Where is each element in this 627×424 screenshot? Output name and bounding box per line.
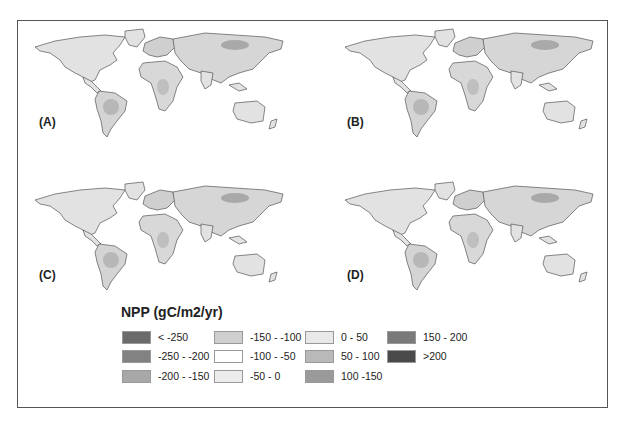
world-map-b <box>335 25 625 170</box>
legend-label: 50 - 100 <box>341 350 380 362</box>
legend-swatch <box>305 331 334 344</box>
legend-item: < -250 <box>122 330 188 344</box>
legend-swatch <box>305 350 334 363</box>
map-panel-b: (B) <box>335 25 625 170</box>
legend-label: -100 - -50 <box>250 350 296 362</box>
legend-item: -250 - -200 <box>122 349 209 363</box>
legend-item: 100 -150 <box>305 369 382 383</box>
legend-item: >200 <box>387 349 447 363</box>
map-panel-a: (A) <box>25 25 315 170</box>
map-panel-c: (C) <box>25 178 315 323</box>
legend-item: -50 - 0 <box>214 369 280 383</box>
legend-label: -50 - 0 <box>250 370 280 382</box>
legend-label: 150 - 200 <box>423 331 467 343</box>
legend-swatch <box>214 331 243 344</box>
legend-item: 50 - 100 <box>305 349 380 363</box>
panel-label-c: (C) <box>39 268 56 282</box>
legend-swatch <box>122 370 151 383</box>
panel-label-b: (B) <box>347 115 364 129</box>
legend-label: 100 -150 <box>341 370 382 382</box>
legend-item: -150 - -100 <box>214 330 301 344</box>
legend-swatch <box>387 331 416 344</box>
legend-swatch <box>387 350 416 363</box>
legend-label: < -250 <box>158 331 188 343</box>
legend-label: -150 - -100 <box>250 331 301 343</box>
legend-item: 0 - 50 <box>305 330 368 344</box>
legend-title: NPP (gC/m2/yr) <box>121 304 223 320</box>
legend-label: -250 - -200 <box>158 350 209 362</box>
legend-swatch <box>214 370 243 383</box>
world-map-d <box>335 178 625 323</box>
legend-item: 150 - 200 <box>387 330 467 344</box>
legend-label: >200 <box>423 350 447 362</box>
legend-label: 0 - 50 <box>341 331 368 343</box>
panel-label-a: (A) <box>39 115 56 129</box>
legend-item: -100 - -50 <box>214 349 296 363</box>
world-map-a <box>25 25 315 170</box>
legend-swatch <box>122 350 151 363</box>
legend-item: -200 - -150 <box>122 369 209 383</box>
legend-swatch <box>122 331 151 344</box>
legend-swatch <box>214 350 243 363</box>
legend-label: -200 - -150 <box>158 370 209 382</box>
world-map-c <box>25 178 315 323</box>
legend-swatch <box>305 370 334 383</box>
map-panel-d: (D) <box>335 178 625 323</box>
panel-label-d: (D) <box>347 268 364 282</box>
